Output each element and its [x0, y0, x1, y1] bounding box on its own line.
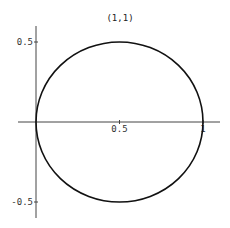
y-tick-label-neg-0.5: -0.5 — [11, 197, 33, 207]
y-tick-label-0.5: 0.5 — [17, 37, 33, 47]
plot-area: (1,1) 0.5 1 0.5 -0.5 — [0, 0, 230, 228]
chart-title: (1,1) — [106, 13, 133, 23]
x-tick-label-0.5: 0.5 — [111, 124, 127, 134]
